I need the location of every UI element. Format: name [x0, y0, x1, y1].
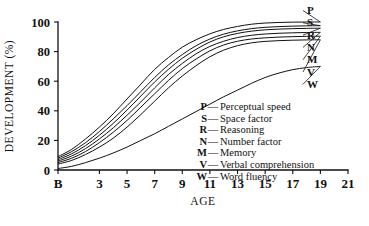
y-tick-label: 20 — [38, 134, 51, 148]
x-tick-label: 17 — [286, 176, 300, 191]
end-label-R: R — [307, 29, 316, 41]
legend-label-P: Perceptual speed — [220, 101, 292, 112]
legend-key-W: W — [197, 171, 208, 182]
legend-label-M: Memory — [220, 147, 257, 158]
legend-label-S: Space factor — [220, 113, 273, 124]
legend-dash-V: — — [207, 159, 219, 170]
legend-dash-R: — — [207, 124, 219, 135]
y-tick-label: 100 — [31, 16, 50, 30]
x-tick-label: 7 — [151, 176, 158, 191]
x-tick-label: 5 — [124, 176, 131, 191]
end-label-V: V — [307, 66, 315, 78]
x-tick-label: 19 — [314, 176, 328, 191]
end-label-S: S — [307, 16, 313, 28]
legend-label-R: Reasoning — [220, 124, 265, 135]
x-axis-title: AGE — [190, 195, 215, 207]
y-tick-label: 40 — [38, 104, 51, 118]
y-tick-label: 60 — [38, 75, 51, 89]
legend-dash-S: — — [207, 113, 219, 124]
legend-dash-P: — — [207, 101, 219, 112]
end-label-N: N — [307, 41, 315, 53]
legend-dash-W: — — [207, 171, 219, 182]
end-label-M: M — [307, 53, 318, 65]
legend-label-W: Word fluency — [220, 171, 278, 182]
chart-canvas: 020406080100 B3579111315171921 PSRNMVW A… — [0, 0, 369, 226]
y-axis-ticks: 020406080100 — [31, 16, 58, 178]
legend-dash-N: — — [207, 136, 219, 147]
legend-key-S: S — [201, 113, 207, 124]
legend-key-R: R — [199, 124, 207, 135]
legend-key-P: P — [201, 101, 208, 112]
legend-label-V: Verbal comprehension — [220, 159, 315, 170]
x-tick-label: 9 — [179, 176, 186, 191]
development-by-age-chart: 020406080100 B3579111315171921 PSRNMVW A… — [0, 0, 369, 226]
x-tick-label: B — [54, 176, 63, 191]
legend-key-M: M — [197, 147, 207, 158]
y-tick-label: 0 — [44, 164, 50, 178]
x-tick-label: 21 — [342, 176, 355, 191]
x-tick-label: 3 — [96, 176, 103, 191]
end-label-W: W — [307, 78, 318, 90]
end-label-P: P — [307, 4, 314, 16]
legend: P—Perceptual speedS—Space factorR—Reason… — [197, 101, 315, 182]
legend-key-N: N — [199, 136, 207, 147]
y-axis-title: DEVELOPMENT (%) — [3, 40, 16, 152]
y-tick-label: 80 — [38, 45, 51, 59]
curve-W — [58, 66, 320, 168]
legend-key-V: V — [199, 159, 207, 170]
legend-label-N: Number factor — [220, 136, 282, 147]
legend-dash-M: — — [207, 147, 219, 158]
